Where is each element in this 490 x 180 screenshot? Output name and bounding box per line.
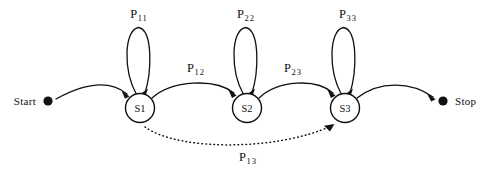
label-p12-base: P — [187, 61, 194, 75]
state-diagram: Start Stop S1 S2 S3 P11 P22 P33 — [0, 0, 490, 180]
stop-label: Stop — [455, 95, 477, 107]
terminal-stop[interactable]: Stop — [438, 95, 476, 107]
self-loop-s2 — [234, 28, 257, 98]
self-loop-s3 — [332, 28, 355, 98]
label-p13-base: P — [239, 150, 246, 164]
state-node-s1[interactable]: S1 — [126, 94, 155, 123]
edge-s2-to-s3-path — [259, 83, 333, 98]
edge-s3-to-stop — [357, 85, 436, 101]
label-p11-sub: 11 — [137, 13, 148, 23]
edge-s3-to-stop-path — [357, 85, 433, 98]
label-p22-sub: 22 — [244, 13, 255, 23]
edge-s1-to-s3-dotted-path — [145, 126, 331, 145]
start-dot-icon[interactable] — [43, 96, 52, 105]
edge-s1-to-s3-dotted — [145, 124, 335, 145]
edge-start-to-s1-arrowhead — [121, 90, 129, 99]
edge-s1-to-s2-arrowhead — [228, 89, 236, 98]
edge-start-to-s1-path — [56, 85, 127, 99]
label-p12: P12 — [187, 62, 205, 76]
label-p11-base: P — [130, 7, 137, 21]
edge-s2-to-s3 — [259, 83, 336, 98]
edge-s1-to-s2 — [152, 83, 237, 98]
label-p13-sub: 13 — [246, 156, 257, 166]
start-label: Start — [14, 95, 36, 107]
label-p23-sub: 23 — [291, 67, 302, 77]
label-p23: P23 — [284, 62, 302, 76]
state-node-s3[interactable]: S3 — [331, 94, 360, 123]
edge-s2-to-s3-arrowhead — [327, 89, 335, 98]
state-node-s2[interactable]: S2 — [233, 94, 262, 123]
label-p33: P33 — [339, 8, 357, 22]
self-loop-s1 — [127, 28, 150, 98]
label-p11: P11 — [130, 8, 147, 22]
label-p12-sub: 12 — [194, 67, 205, 77]
edge-start-to-s1 — [56, 85, 130, 99]
edge-s3-to-stop-arrowhead — [427, 93, 436, 101]
label-p13: P13 — [239, 151, 257, 165]
edge-s1-to-s3-arrowhead — [324, 124, 335, 131]
self-loop-s1-path — [127, 28, 150, 95]
label-p22: P22 — [237, 8, 255, 22]
state-s1-label: S1 — [134, 103, 145, 114]
label-p33-base: P — [339, 7, 346, 21]
label-p33-sub: 33 — [346, 13, 357, 23]
stop-dot-icon[interactable] — [438, 96, 447, 105]
state-s2-label: S2 — [241, 103, 252, 114]
state-s3-label: S3 — [339, 103, 350, 114]
edge-s1-to-s2-path — [152, 83, 234, 98]
label-p22-base: P — [237, 7, 244, 21]
terminal-start[interactable]: Start — [14, 95, 53, 107]
self-loop-s3-path — [332, 28, 355, 95]
label-p23-base: P — [284, 61, 291, 75]
self-loop-s2-path — [234, 28, 257, 95]
